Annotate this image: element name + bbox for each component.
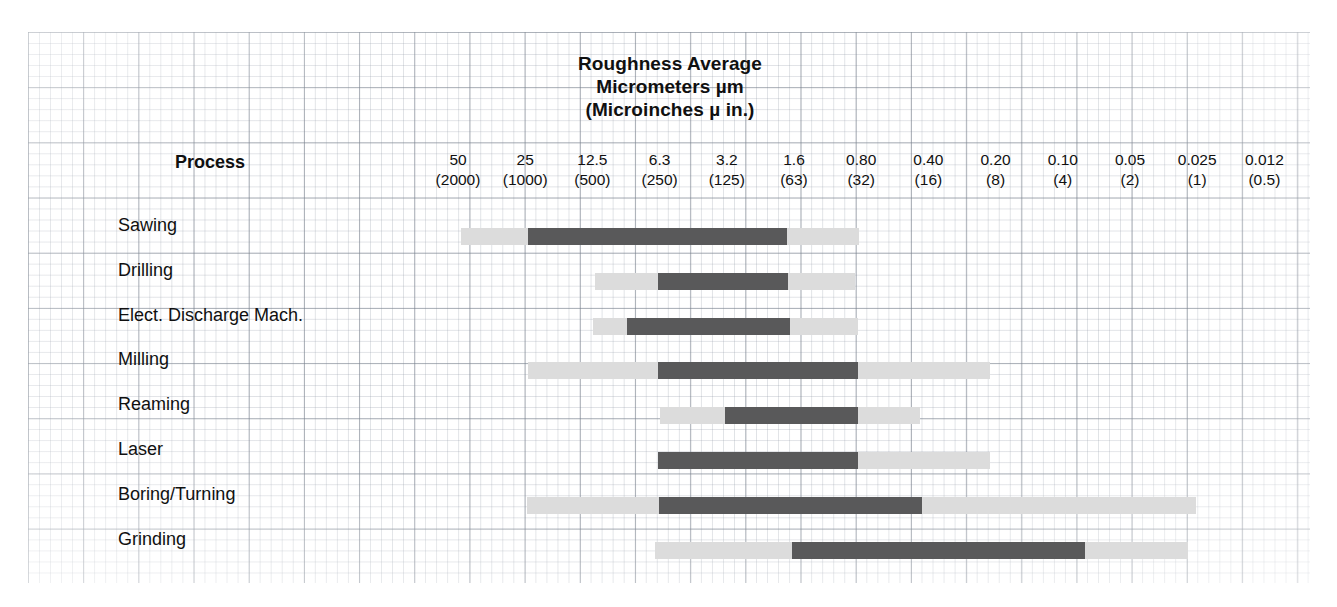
scale-tick-micrometers: 0.025: [1164, 150, 1231, 170]
scale-tick-12: 0.012(0.5): [1231, 150, 1298, 190]
scale-tick-2: 12.5(500): [559, 150, 626, 190]
scale-tick-micrometers: 25: [492, 150, 559, 170]
process-label-3: Milling: [118, 349, 169, 370]
scale-tick-3: 6.3(250): [626, 150, 693, 190]
scale-tick-5: 1.6(63): [761, 150, 828, 190]
scale-tick-microinches: (2): [1097, 170, 1164, 190]
bar-average-application-6: [659, 497, 922, 514]
scale-tick-microinches: (250): [626, 170, 693, 190]
bar-average-application-5: [658, 452, 858, 469]
process-label-5: Laser: [118, 439, 163, 460]
scale-tick-micrometers: 0.80: [828, 150, 895, 170]
process-label-2: Elect. Discharge Mach.: [118, 305, 303, 326]
chart-title-line-2: Micrometers µm: [440, 75, 900, 98]
scale-tick-10: 0.05(2): [1097, 150, 1164, 190]
bar-average-application-7: [792, 542, 1085, 559]
scale-tick-7: 0.40(16): [895, 150, 962, 190]
scale-tick-microinches: (32): [828, 170, 895, 190]
process-column-header: Process: [85, 152, 335, 173]
scale-tick-6: 0.80(32): [828, 150, 895, 190]
scale-tick-microinches: (500): [559, 170, 626, 190]
bar-average-application-3: [658, 362, 858, 379]
process-label-0: Sawing: [118, 215, 177, 236]
scale-tick-micrometers: 0.10: [1029, 150, 1096, 170]
chart-title-line-3: (Microinches µ in.): [440, 98, 900, 121]
scale-tick-4: 3.2(125): [693, 150, 760, 190]
scale-tick-micrometers: 0.05: [1097, 150, 1164, 170]
process-label-6: Boring/Turning: [118, 484, 235, 505]
scale-tick-micrometers: 0.40: [895, 150, 962, 170]
scale-tick-micrometers: 3.2: [693, 150, 760, 170]
bar-average-application-2: [627, 318, 790, 335]
process-label-4: Reaming: [118, 394, 190, 415]
scale-tick-microinches: (125): [693, 170, 760, 190]
bar-average-application-1: [658, 273, 788, 290]
scale-tick-microinches: (4): [1029, 170, 1096, 190]
bar-average-application-0: [528, 228, 787, 245]
scale-tick-micrometers: 50: [425, 150, 492, 170]
chart-title-line-1: Roughness Average: [440, 52, 900, 75]
scale-tick-microinches: (0.5): [1231, 170, 1298, 190]
process-label-1: Drilling: [118, 260, 173, 281]
scale-tick-microinches: (2000): [425, 170, 492, 190]
scale-tick-0: 50(2000): [425, 150, 492, 190]
scale-tick-9: 0.10(4): [1029, 150, 1096, 190]
scale-tick-micrometers: 1.6: [761, 150, 828, 170]
scale-tick-8: 0.20(8): [962, 150, 1029, 190]
process-label-7: Grinding: [118, 529, 186, 550]
scale-tick-microinches: (16): [895, 170, 962, 190]
scale-tick-microinches: (1000): [492, 170, 559, 190]
scale-tick-micrometers: 0.20: [962, 150, 1029, 170]
scale-tick-microinches: (63): [761, 170, 828, 190]
chart-content: Roughness Average Micrometers µm (Microi…: [0, 0, 1337, 607]
scale-tick-micrometers: 6.3: [626, 150, 693, 170]
scale-tick-11: 0.025(1): [1164, 150, 1231, 190]
scale-tick-microinches: (8): [962, 170, 1029, 190]
scale-tick-microinches: (1): [1164, 170, 1231, 190]
scale-tick-micrometers: 0.012: [1231, 150, 1298, 170]
scale-tick-1: 25(1000): [492, 150, 559, 190]
bar-average-application-4: [725, 407, 858, 424]
scale-tick-micrometers: 12.5: [559, 150, 626, 170]
